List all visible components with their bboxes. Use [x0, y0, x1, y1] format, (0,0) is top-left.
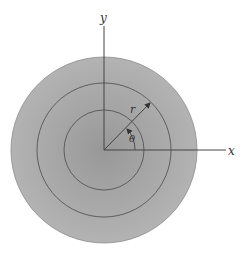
y-axis-label: y	[99, 11, 107, 25]
radius-label: r	[130, 103, 136, 116]
x-axis-label: x	[228, 144, 235, 158]
polar-coordinates-diagram: y x r θ	[0, 0, 251, 257]
angle-label: θ	[129, 133, 135, 144]
